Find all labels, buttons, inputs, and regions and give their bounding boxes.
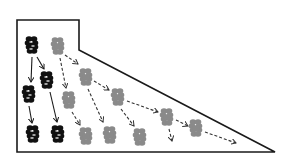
faded-node — [62, 91, 76, 109]
dashed-arrow — [60, 58, 66, 88]
dashed-arrow — [176, 120, 188, 126]
solid-arrow — [50, 92, 57, 122]
solid-node — [25, 36, 39, 54]
faded-node — [160, 108, 174, 126]
dashed-arrow — [121, 109, 134, 126]
faded-node — [51, 37, 65, 55]
faded-node — [189, 119, 203, 137]
dashed-arrow — [72, 112, 80, 125]
faded-node — [133, 128, 147, 146]
dashed-arrow — [88, 89, 103, 122]
faded-node — [79, 68, 93, 86]
dashed-arrow — [65, 55, 78, 64]
solid-node — [26, 125, 40, 143]
dashed-arrow — [94, 81, 109, 90]
solid-node — [22, 85, 36, 103]
faded-nodes — [51, 37, 203, 146]
solid-arrow — [31, 57, 32, 82]
solid-arrow — [29, 106, 32, 123]
lineage-diagram — [0, 0, 293, 160]
faded-node — [103, 126, 117, 144]
faded-node — [79, 127, 93, 145]
solid-node — [51, 125, 65, 143]
dashed-arrow — [169, 129, 172, 141]
solid-arrow — [37, 57, 44, 69]
dashed-arrow — [205, 132, 236, 143]
dashed-arrow — [127, 101, 158, 112]
faded-node — [111, 88, 125, 106]
solid-node — [40, 71, 54, 89]
